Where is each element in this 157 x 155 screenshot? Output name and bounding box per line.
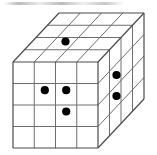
figure-root: [0, 0, 157, 155]
cube-diagram: [0, 0, 157, 155]
front-dot-1: [41, 86, 49, 94]
front-dot-3: [62, 107, 70, 115]
marked-cell-dots: [41, 37, 121, 115]
right-dot-2: [112, 92, 120, 100]
cube-outer-edges: [13, 13, 144, 148]
front-dot-2: [62, 86, 70, 94]
top-dot-1: [61, 37, 69, 45]
right-dot-1: [112, 71, 120, 79]
